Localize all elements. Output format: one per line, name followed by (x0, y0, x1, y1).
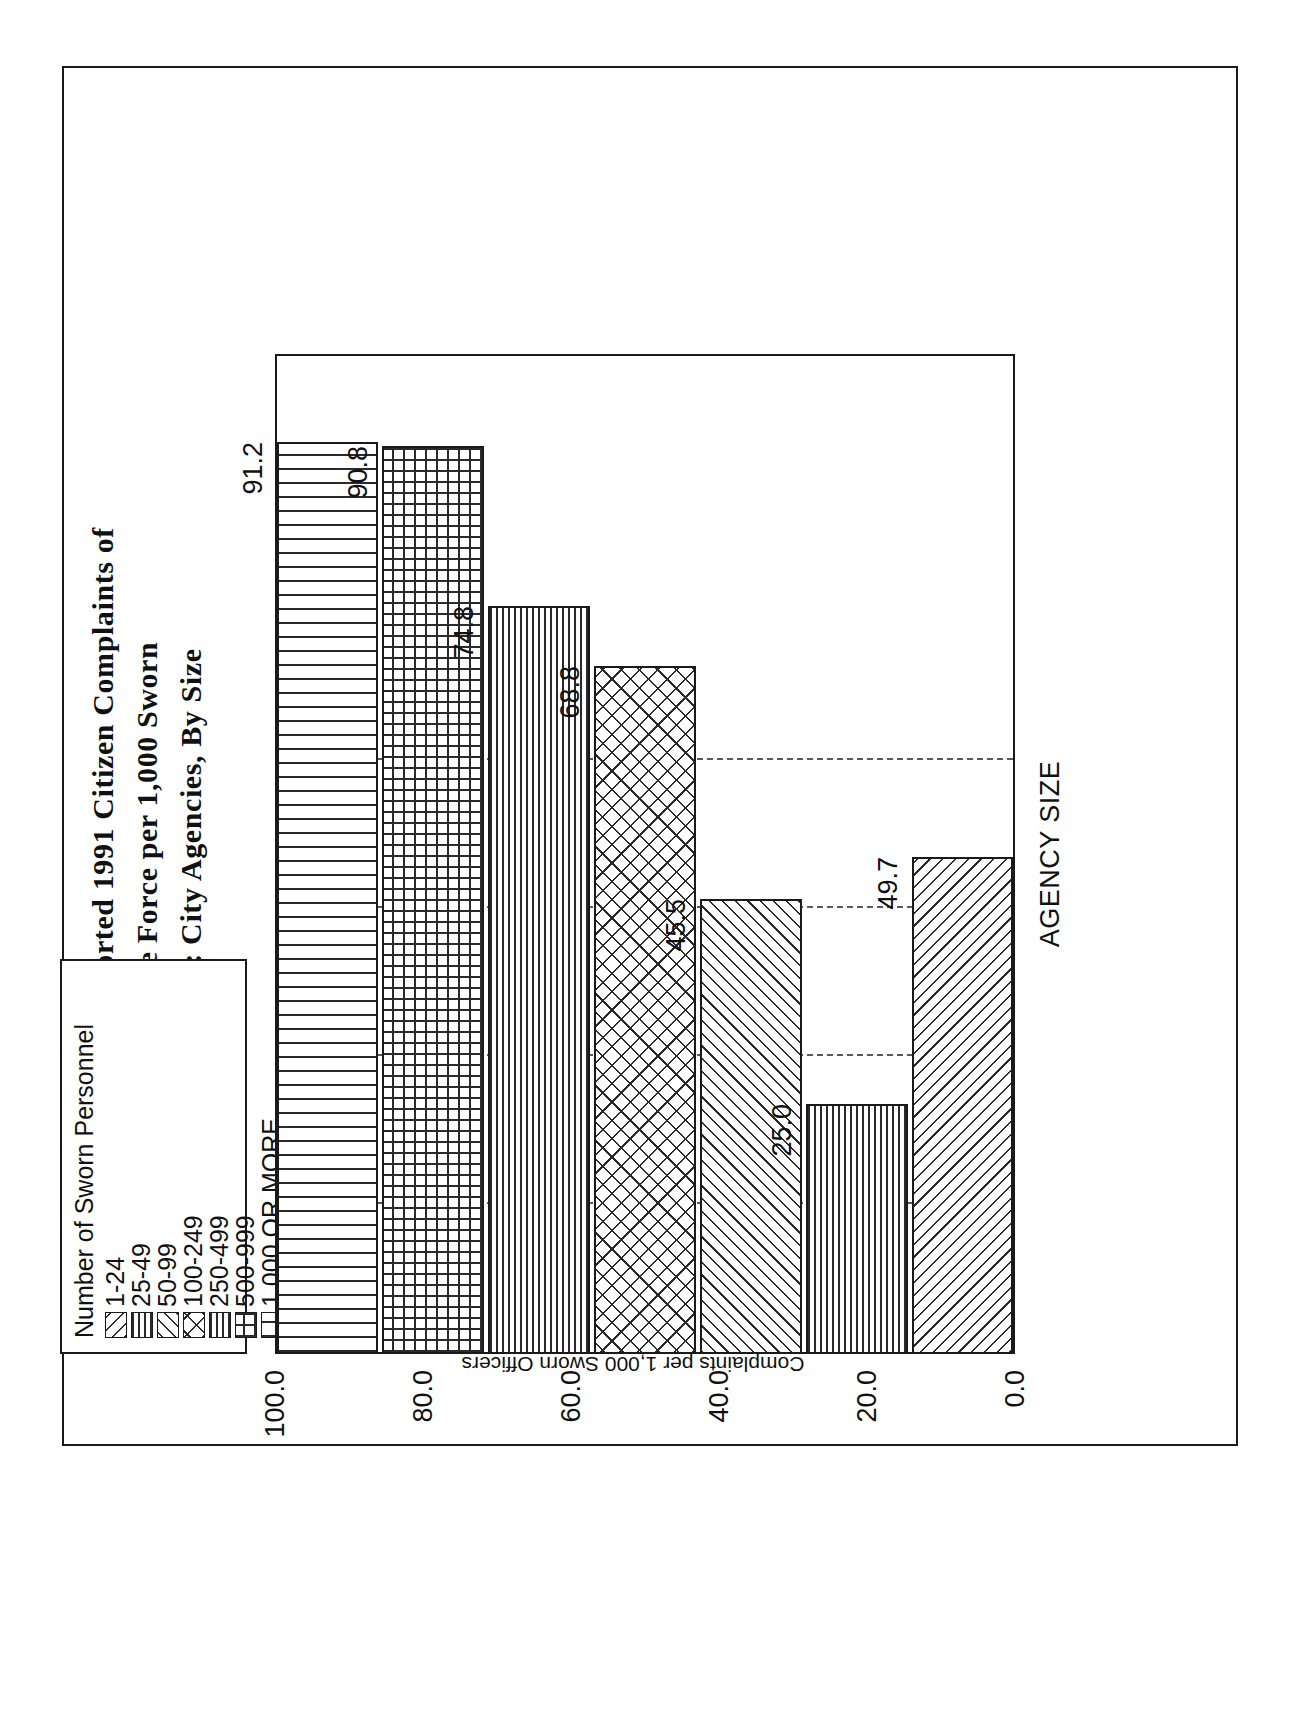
legend-title: Number of Sworn Personnel (70, 973, 99, 1338)
bar-value-label-50-99: 45.5 (661, 899, 692, 952)
legend-item-250-499[interactable]: 250-499 (207, 973, 232, 1338)
bar-value-label-500-999: 90.8 (343, 446, 374, 499)
legend-item-100-249[interactable]: 100-249 (181, 973, 206, 1338)
legend-swatch-icon-250-499 (208, 1312, 230, 1338)
legend-item-50-99[interactable]: 50-99 (155, 973, 180, 1338)
legend-label-25-49: 25-49 (129, 1243, 154, 1307)
legend-label-250-499: 250-499 (207, 1215, 232, 1307)
plot-wrapper: Complaints per 1,000 Sworn Officers 0.0 … (275, 354, 1015, 1354)
legend-items: 1-24 25-49 50-99 100-249 (103, 973, 284, 1338)
bar-value-label-100-249: 68.8 (555, 666, 586, 719)
category-axis-title: AGENCY SIZE (1035, 354, 1066, 1354)
bar-1000-or-more[interactable] (277, 442, 378, 1354)
axis-tick-0: 0.0 (999, 1370, 1030, 1408)
legend-label-1-24: 1-24 (103, 1257, 128, 1307)
bar-value-label-1-24: 49.7 (873, 857, 904, 910)
axis-tick-100: 100.0 (259, 1370, 290, 1438)
axis-tick-80: 80.0 (407, 1370, 438, 1423)
legend-label-50-99: 50-99 (155, 1243, 180, 1307)
axis-tick-60: 60.0 (555, 1370, 586, 1423)
bar-value-label-1000-or-more: 91.2 (238, 442, 269, 495)
legend-swatch-icon-500-999 (234, 1312, 256, 1338)
bar-500-999[interactable] (382, 446, 484, 1354)
bar-value-label-25-49: 25.0 (767, 1104, 798, 1157)
legend-label-500-999: 500-999 (233, 1215, 258, 1307)
legend-item-500-999[interactable]: 500-999 (233, 973, 258, 1338)
legend-swatch-icon-1-24 (104, 1312, 126, 1338)
bar-1-24[interactable] (912, 857, 1013, 1354)
legend-item-25-49[interactable]: 25-49 (129, 973, 154, 1338)
bar-25-49[interactable] (806, 1104, 908, 1354)
axis-tick-40: 40.0 (703, 1370, 734, 1423)
legend-swatch-icon-100-249 (182, 1312, 204, 1338)
legend-item-1-24[interactable]: 1-24 (103, 973, 128, 1338)
rotated-figure-stage: Figure 12.2: Reported 1991 Citizen Compl… (0, 0, 1305, 1720)
legend-swatch-icon-50-99 (156, 1312, 178, 1338)
axis-tick-20: 20.0 (851, 1370, 882, 1423)
figure-canvas: Figure 12.2: Reported 1991 Citizen Compl… (65, 170, 1241, 1550)
figure-page: Figure 12.2: Reported 1991 Citizen Compl… (0, 0, 1305, 1720)
legend: Number of Sworn Personnel 1-24 25-49 50-… (60, 959, 247, 1354)
bar-100-249[interactable] (594, 666, 696, 1354)
legend-swatch-icon-25-49 (130, 1312, 152, 1338)
legend-label-100-249: 100-249 (181, 1215, 206, 1307)
bar-value-label-250-499: 74.8 (449, 606, 480, 659)
